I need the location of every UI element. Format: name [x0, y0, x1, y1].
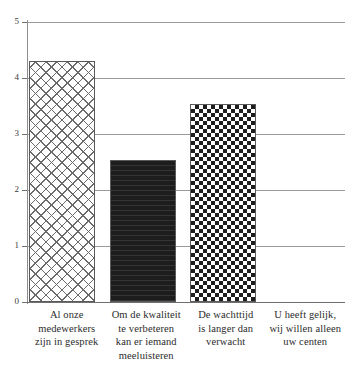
category-label-1-line-1: Al onze — [28, 308, 106, 322]
bar-al-onze-medewerkers-zijn-in-gesprek — [29, 61, 95, 302]
y-tick-1 — [22, 246, 27, 247]
y-tick-2 — [22, 190, 27, 191]
top-edge-artifact — [0, 0, 349, 8]
y-tick-0 — [22, 302, 27, 303]
gridline-5: 5 — [27, 22, 345, 23]
y-tick-label-2: 2 — [0, 185, 19, 194]
plot-area: 5 4 3 2 1 0 — [27, 22, 345, 302]
category-label-2: Om de kwaliteit te verbeteren kan er iem… — [107, 306, 187, 378]
category-label-3-line-1: De wachttijd — [187, 308, 265, 322]
category-label-4: U heeft gelijk, wij willen alleen uw cen… — [266, 306, 346, 378]
y-tick-label-4: 4 — [0, 73, 19, 82]
y-tick-label-3: 3 — [0, 129, 19, 138]
category-label-4-line-1: U heeft gelijk, — [267, 308, 345, 322]
category-label-2-line-4: meeluisteren — [108, 349, 186, 363]
category-label-3: De wachttijd is langer dan verwacht — [186, 306, 266, 378]
category-axis-labels: Al onze medewerkers zijn in gesprek Om d… — [27, 306, 345, 378]
category-label-1: Al onze medewerkers zijn in gesprek — [27, 306, 107, 378]
gridline-0-baseline: 0 — [27, 302, 345, 303]
category-label-2-line-1: Om de kwaliteit — [108, 308, 186, 322]
category-label-2-line-2: te verbeteren — [108, 322, 186, 336]
y-tick-5 — [22, 22, 27, 23]
y-tick-3 — [22, 134, 27, 135]
category-label-2-line-3: kan er iemand — [108, 335, 186, 349]
bar-chart: 5 4 3 2 1 0 Al onze m — [0, 0, 349, 380]
category-label-3-line-2: is langer dan — [187, 322, 265, 336]
category-label-1-line-3: zijn in gesprek — [28, 335, 106, 349]
category-label-3-line-3: verwacht — [187, 335, 265, 349]
category-label-1-line-2: medewerkers — [28, 322, 106, 336]
y-tick-label-0: 0 — [0, 297, 19, 306]
bar-om-de-kwaliteit-te-verbeteren-kan-er-iemand-meeluisteren — [110, 160, 176, 302]
y-tick-label-5: 5 — [0, 17, 19, 26]
y-tick-label-1: 1 — [0, 241, 19, 250]
category-label-4-line-2: wij willen alleen — [267, 322, 345, 336]
bar-de-wachttijd-is-langer-dan-verwacht — [190, 104, 256, 302]
y-tick-4 — [22, 78, 27, 79]
category-label-4-line-3: uw centen — [267, 335, 345, 349]
